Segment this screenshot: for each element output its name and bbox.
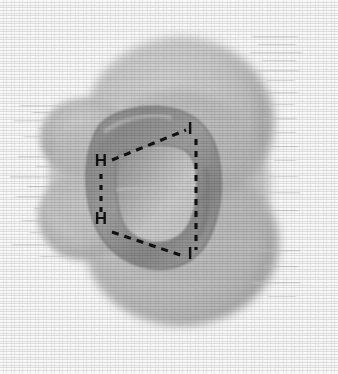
orbital-isosurface-svg: H H I I bbox=[0, 0, 338, 374]
torus-aperture bbox=[115, 145, 197, 242]
atom-label-i-top: I bbox=[188, 119, 193, 138]
atom-label-h-top: H bbox=[95, 151, 107, 170]
atom-label-h-bottom: H bbox=[95, 209, 107, 228]
atom-label-i-bottom: I bbox=[188, 244, 193, 263]
figure-canvas: H H I I bbox=[0, 0, 338, 374]
